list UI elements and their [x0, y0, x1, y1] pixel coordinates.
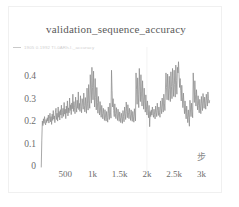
data-line-validation-sequence-accuracy: [41, 62, 209, 167]
y-tick-label: 0.1: [10, 140, 36, 150]
x-tick-label: 3k: [197, 170, 206, 179]
chart-card: validation_sequence_accuracy 1905 0.1992…: [8, 6, 222, 193]
x-tick-label: 1.5k: [112, 170, 128, 179]
x-tick-label: 2k: [142, 170, 151, 179]
chart-title: validation_sequence_accuracy: [9, 23, 223, 35]
x-tick-label: 1k: [88, 170, 97, 179]
legend-label: 1905 0.1992 TI-0ARh.I._accuracy: [24, 45, 94, 50]
x-axis-title: 步: [197, 153, 206, 162]
x-tick-label: 2.5k: [166, 170, 182, 179]
line-dash-icon: [13, 47, 21, 48]
y-tick-label: 0.4: [10, 72, 36, 82]
y-tick-label: 0.3: [10, 95, 36, 105]
plot-svg: [38, 55, 215, 167]
y-axis: 0.40.30.20.10: [9, 55, 36, 167]
y-tick-label: 0: [10, 162, 36, 172]
x-axis: 5001k1.5k2k2.5k3k: [38, 170, 215, 184]
x-tick-label: 500: [58, 170, 72, 179]
chart-legend[interactable]: 1905 0.1992 TI-0ARh.I._accuracy: [13, 45, 94, 50]
y-tick-label: 0.2: [10, 117, 36, 127]
plot-area[interactable]: [38, 55, 215, 167]
